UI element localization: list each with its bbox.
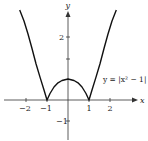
x-tick-label: −1 xyxy=(40,104,52,113)
x-axis-arrow-icon xyxy=(132,98,138,103)
function-graph: x y −2 −1 1 2 2 −1 y = |x² − 1| xyxy=(0,0,148,141)
y-axis-label: y xyxy=(65,1,71,10)
y-tick-label: −1 xyxy=(56,117,68,126)
x-tick-label: 1 xyxy=(87,104,92,113)
y-tick-label: 2 xyxy=(59,33,64,42)
x-tick-label: −2 xyxy=(19,104,31,113)
equation-label: y = |x² − 1| xyxy=(102,75,146,84)
x-axis-label: x xyxy=(140,96,145,105)
x-tick-label: 2 xyxy=(108,104,113,113)
y-axis-arrow-icon xyxy=(66,11,71,17)
